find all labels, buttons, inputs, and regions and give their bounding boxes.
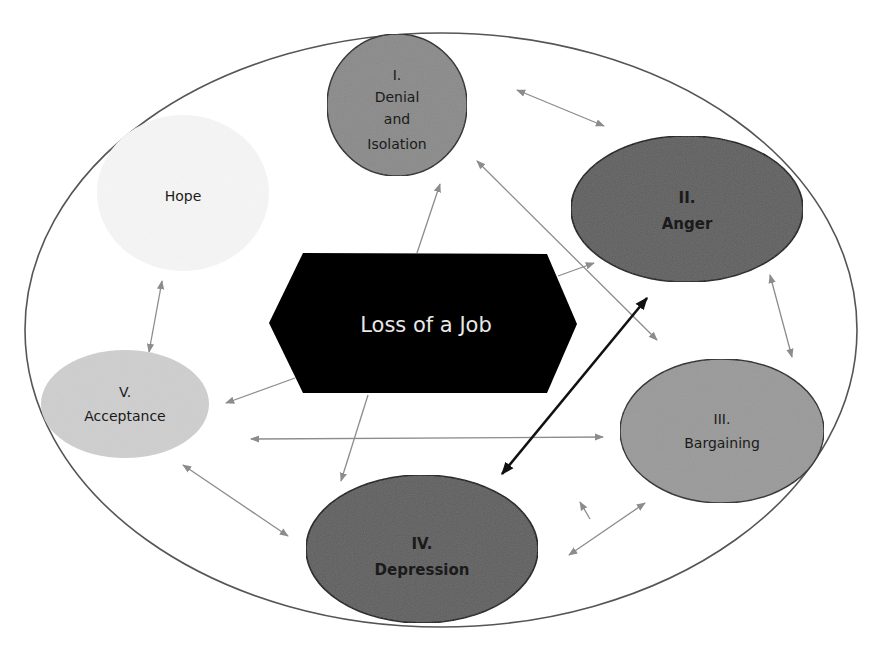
arrow-depression-bargaining <box>569 503 645 555</box>
center-label: Loss of a Job <box>360 313 492 337</box>
arrow-acceptance-depression <box>183 465 288 536</box>
depression-numeral: IV. <box>412 535 433 553</box>
denial-line3: Isolation <box>367 136 426 152</box>
grief-stages-diagram: Hope I. Denial and Isolation <box>0 0 885 648</box>
node-bargaining[interactable]: III. Bargaining <box>620 359 824 503</box>
denial-line2: and <box>384 111 410 127</box>
node-hope[interactable]: Hope <box>97 115 269 271</box>
arrow-center-to-acceptance <box>226 378 295 403</box>
node-depression[interactable]: IV. Depression <box>306 475 538 623</box>
node-anger[interactable]: II. Anger <box>571 136 803 282</box>
arrow-center-to-anger <box>558 263 594 276</box>
arrow-center-to-denial <box>417 184 440 253</box>
acceptance-numeral: V. <box>119 384 131 400</box>
center-loss-of-a-job[interactable]: Loss of a Job <box>269 253 577 393</box>
arrow-short-upward <box>580 502 590 519</box>
arrow-denial-anger <box>517 90 604 126</box>
arrow-acceptance-hope <box>149 281 162 352</box>
acceptance-label: Acceptance <box>84 408 165 424</box>
node-acceptance[interactable]: V. Acceptance <box>41 350 209 458</box>
bargaining-label: Bargaining <box>684 435 760 451</box>
depression-label: Depression <box>375 561 470 579</box>
anger-label: Anger <box>662 215 713 233</box>
bargaining-numeral: III. <box>714 411 731 427</box>
node-denial-isolation[interactable]: I. Denial and Isolation <box>327 34 467 176</box>
denial-line1: Denial <box>375 89 420 105</box>
anger-numeral: II. <box>679 189 696 207</box>
arrow-acceptance-bargaining <box>251 437 603 439</box>
arrow-anger-bargaining <box>770 275 792 357</box>
denial-numeral: I. <box>393 67 402 83</box>
hope-label: Hope <box>165 188 202 204</box>
